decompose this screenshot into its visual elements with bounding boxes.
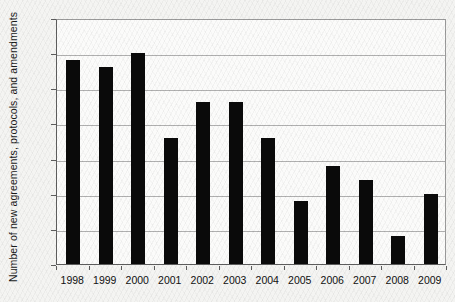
bar-chart: Number of new agreements, protocols, and… xyxy=(0,0,455,302)
bar-2004 xyxy=(261,138,275,265)
bar-2005 xyxy=(294,201,308,264)
bar-1999 xyxy=(99,67,113,264)
x-tick-mark xyxy=(316,266,317,270)
x-tick-mark xyxy=(251,266,252,270)
x-tick-mark xyxy=(414,266,415,270)
bar-2000 xyxy=(131,53,145,264)
gridline xyxy=(57,161,445,162)
x-tick-mark xyxy=(219,266,220,270)
y-axis-title: Number of new agreements, protocols, and… xyxy=(4,2,22,292)
gridline xyxy=(57,55,445,56)
gridline xyxy=(57,231,445,232)
bar-2002 xyxy=(196,102,210,264)
gridline xyxy=(57,90,445,91)
x-tick-mark xyxy=(89,266,90,270)
bar-2003 xyxy=(229,102,243,264)
x-tick-mark xyxy=(381,266,382,270)
bar-2008 xyxy=(391,236,405,264)
bar-2009 xyxy=(424,194,438,264)
bar-2007 xyxy=(359,180,373,264)
gridline xyxy=(57,125,445,126)
x-tick-label-2009: 2009 xyxy=(410,274,450,286)
bar-2001 xyxy=(164,138,178,265)
x-tick-mark xyxy=(121,266,122,270)
x-tick-mark xyxy=(186,266,187,270)
x-tick-mark xyxy=(349,266,350,270)
plot-area xyxy=(56,19,446,265)
bar-2006 xyxy=(326,166,340,264)
x-tick-mark xyxy=(284,266,285,270)
x-tick-mark xyxy=(154,266,155,270)
gridline xyxy=(57,196,445,197)
x-tick-mark-origin xyxy=(56,266,57,270)
x-tick-mark xyxy=(446,266,447,270)
bar-1998 xyxy=(66,60,80,264)
